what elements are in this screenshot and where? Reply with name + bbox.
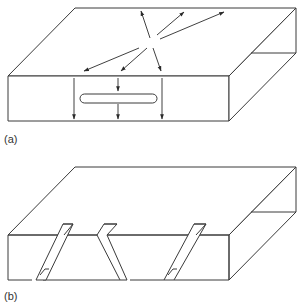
slab-a-front-face [8, 76, 229, 121]
panel-a-label: (a) [4, 133, 17, 145]
panel-b-label: (b) [4, 290, 17, 302]
panel-a-slab [8, 8, 296, 121]
figure-canvas [0, 0, 305, 308]
front-left-edge [8, 235, 32, 280]
